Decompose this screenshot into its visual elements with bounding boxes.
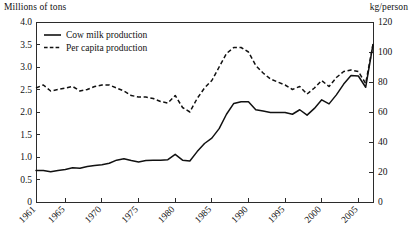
right-axis-tick-label: 60 [378,107,388,117]
right-axis-tick-label: 100 [378,47,393,57]
series-line-per-capita [36,45,373,113]
left-axis-tick-label: 1.5 [20,130,32,140]
right-axis-tick-label: 80 [378,77,388,87]
right-axis-tick-label: 120 [378,17,393,27]
left-axis-tick-label: 2.0 [20,107,32,117]
right-axis-tick-label: 0 [378,197,383,207]
x-axis-tick-label: 1995 [266,204,287,225]
left-axis-tick-label: 2.5 [20,85,32,95]
legend-label: Per capita production [66,43,148,53]
x-axis-tick-label: 1961 [17,204,38,225]
x-axis-tick-label: 2005 [339,204,360,225]
series-line-cow-milk [36,45,373,172]
line-chart-plot: 00.51.01.52.02.53.03.54.0020406080100120… [0,0,411,248]
data-series-layer [36,45,373,172]
chart-legend: Cow milk productionPer capita production [44,30,148,53]
x-axis-tick-label: 1980 [156,204,177,225]
left-axis-tick-label: 1.0 [20,152,32,162]
right-axis-tick-label: 20 [378,167,388,177]
x-axis-tick-label: 1985 [193,204,214,225]
left-axis-tick-label: 0.5 [20,175,32,185]
x-axis-tick-label: 1990 [229,204,250,225]
x-axis-tick-label: 1975 [119,204,140,225]
legend-label: Cow milk production [66,30,148,40]
x-axis-tick-label: 2000 [303,204,324,225]
right-axis-tick-label: 40 [378,137,388,147]
chart-container: Millions of tons kg/person 00.51.01.52.0… [0,0,411,248]
left-axis-tick-label: 3.5 [20,40,32,50]
x-axis-tick-label: 1965 [46,204,67,225]
left-axis-tick-label: 4.0 [20,17,32,27]
left-axis-tick-label: 3.0 [20,62,32,72]
x-axis-tick-label: 1970 [83,204,104,225]
